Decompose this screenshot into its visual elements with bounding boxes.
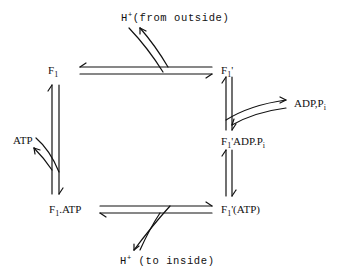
- node-f1-prime-adp-pi-suffix-sub: i: [263, 141, 265, 150]
- node-f1-prime-adp-pi-suffix: 'ADP.P: [231, 135, 263, 147]
- adp-pi-sub: i: [324, 103, 326, 112]
- species-h-from-outside: H+(from outside): [121, 12, 229, 24]
- arrows-layer: [0, 0, 347, 276]
- h-from-outside-base: H: [121, 12, 128, 24]
- reaction-cycle-diagram: F1 F1' F1'ADP.Pi F1'(ATP) F1.ATP H+(from…: [0, 0, 347, 276]
- node-f1-atp: F1.ATP: [49, 204, 81, 218]
- node-f1-sub: 1: [54, 70, 58, 79]
- species-adp-pi: ADP,Pi: [294, 98, 326, 112]
- species-h-to-inside: H+ (to inside): [120, 255, 215, 267]
- node-f1-prime-adp-pi: F1'ADP.Pi: [221, 136, 265, 150]
- bottom-equilibrium-arrows: [100, 202, 212, 250]
- adp-pi-text: ADP,P: [294, 97, 324, 109]
- node-f1-prime-atp-suffix: '(ATP): [231, 203, 260, 215]
- atp-text: ATP: [13, 134, 33, 146]
- species-atp: ATP: [13, 135, 33, 146]
- node-f1-atp-suffix: .ATP: [59, 203, 81, 215]
- h-to-inside-text: (to inside): [132, 255, 215, 267]
- h-to-inside-base: H: [120, 255, 127, 267]
- h-from-outside-text: (from outside): [133, 12, 230, 24]
- right-lower-equilibrium-arrows: [222, 150, 236, 196]
- left-equilibrium-arrows: [34, 85, 63, 194]
- node-f1: F1: [48, 65, 58, 79]
- node-f1-prime-suffix: ': [231, 64, 233, 76]
- right-upper-equilibrium-arrows: [222, 77, 286, 130]
- node-f1-prime-atp: F1'(ATP): [221, 204, 260, 218]
- node-f1-prime: F1': [221, 65, 233, 79]
- top-equilibrium-arrows: [80, 28, 212, 78]
